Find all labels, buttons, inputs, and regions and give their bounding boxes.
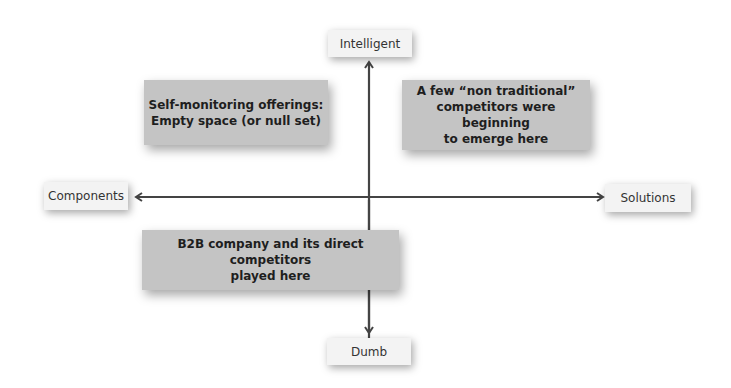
axis-label-components: Components	[44, 182, 128, 210]
axis-label-dumb: Dumb	[327, 338, 411, 365]
axis-label-solutions: Solutions	[605, 184, 691, 212]
positioning-map: Self-monitoring offerings: Empty space (…	[0, 0, 731, 388]
quadrant-text: competitors were beginning	[402, 99, 590, 131]
quadrant-text: B2B company and its direct competitors	[142, 236, 399, 268]
quadrant-top-right: A few “non traditional” competitors were…	[402, 80, 590, 150]
quadrant-top-left: Self-monitoring offerings: Empty space (…	[144, 80, 328, 145]
quadrant-bottom: B2B company and its direct competitors p…	[142, 230, 399, 290]
quadrant-text: A few “non traditional”	[417, 83, 576, 99]
axis-label-intelligent: Intelligent	[328, 30, 412, 57]
quadrant-text: Empty space (or null set)	[151, 113, 321, 129]
quadrant-text: Self-monitoring offerings:	[149, 97, 324, 113]
quadrant-text: to emerge here	[444, 131, 549, 147]
quadrant-text: played here	[231, 268, 311, 284]
